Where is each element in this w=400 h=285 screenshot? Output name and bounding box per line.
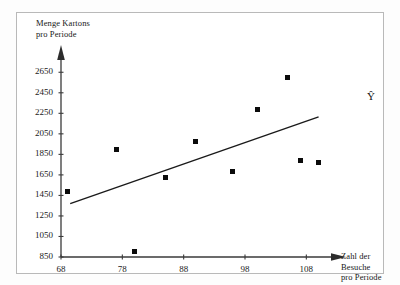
x-tick-label: 78 [107, 264, 137, 274]
data-point [132, 249, 137, 254]
y-axis-arrowhead [57, 45, 65, 60]
x-axis-arrowhead [331, 253, 346, 261]
y-tick-label: 1050 [19, 230, 53, 240]
y-tick-label: 1450 [19, 189, 53, 199]
data-point [230, 169, 235, 174]
data-point [193, 139, 198, 144]
x-tick-label: 88 [169, 264, 199, 274]
data-point [65, 189, 70, 194]
y-tick-label: 2250 [19, 107, 53, 117]
data-point [298, 158, 303, 163]
data-point [114, 147, 119, 152]
data-point [285, 75, 290, 80]
x-tick-label: 98 [230, 264, 260, 274]
data-point [316, 160, 321, 165]
y-tick-label: 850 [19, 251, 53, 261]
y-tick-label: 1250 [19, 210, 53, 220]
scatter-plot-canvas [0, 0, 400, 285]
y-tick-label: 1650 [19, 169, 53, 179]
regression-line [70, 117, 318, 204]
y-tick-label: 2050 [19, 128, 53, 138]
y-tick-label: 1850 [19, 148, 53, 158]
data-point [163, 175, 168, 180]
axes-group [57, 45, 346, 261]
y-tick-label: 2450 [19, 87, 53, 97]
x-tick-label: 108 [291, 264, 321, 274]
chart-page: Menge Kartons pro Periode Zahl der Besuc… [0, 0, 400, 285]
data-point [255, 107, 260, 112]
x-tick-label: 68 [46, 264, 76, 274]
y-tick-label: 2650 [19, 66, 53, 76]
